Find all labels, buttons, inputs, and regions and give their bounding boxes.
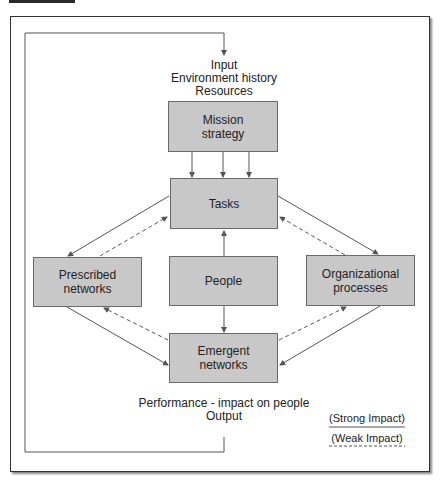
mission-strategy-label: Mission strategy <box>188 113 258 141</box>
legend-weak-impact: (Weak Impact) <box>322 432 412 444</box>
tasks-box: Tasks <box>170 178 278 229</box>
input-labels: Input Environment history Resources <box>124 59 324 98</box>
legend-strong-impact: (Strong Impact) <box>322 412 412 424</box>
emergent-networks-box: Emergent networks <box>169 333 278 383</box>
mission-strategy-box: Mission strategy <box>168 101 278 152</box>
prescribed-networks-label: Prescribed networks <box>53 268 123 296</box>
organizational-processes-box: Organizational processes <box>306 255 415 306</box>
people-box: People <box>169 256 278 306</box>
output-labels: Performance - impact on people Output <box>124 397 324 423</box>
people-label: People <box>205 274 242 288</box>
prescribed-networks-box: Prescribed networks <box>33 257 142 307</box>
tasks-label: Tasks <box>209 197 240 211</box>
resources-label: Resources <box>124 85 324 98</box>
output-label: Output <box>124 410 324 423</box>
emergent-networks-label: Emergent networks <box>189 344 259 372</box>
organizational-processes-label: Organizational processes <box>321 267 401 295</box>
